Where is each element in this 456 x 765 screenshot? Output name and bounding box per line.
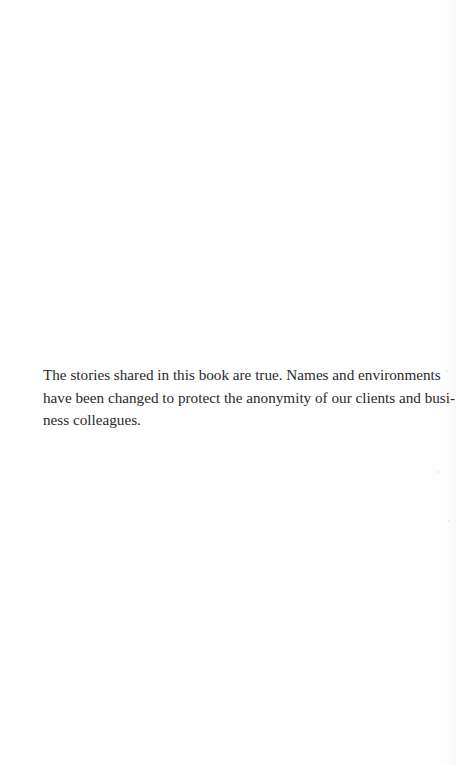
book-page: The stories shared in this book are true…: [0, 0, 456, 765]
scan-speck: [437, 471, 439, 473]
disclaimer-line-3: ness colleagues.: [43, 409, 415, 432]
page-edge-shadow: [446, 0, 456, 765]
disclaimer-line-2: have been changed to protect the anonymi…: [43, 387, 415, 410]
disclaimer-line-1: The stories shared in this book are true…: [43, 364, 415, 387]
disclaimer-paragraph: The stories shared in this book are true…: [43, 364, 415, 432]
scan-speck: [446, 370, 448, 372]
scan-speck: [448, 520, 450, 522]
